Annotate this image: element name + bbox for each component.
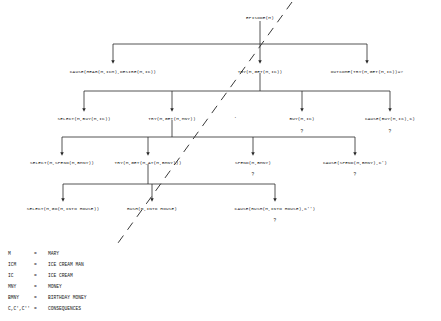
legend-item: BMNY = BIRTHDAY MONEY <box>8 296 87 301</box>
legend-definition: MONEY <box>48 285 62 290</box>
node-try-get-mny: TRY(M,GET(M,MNY)) <box>148 117 195 121</box>
legend-item: IC = ICE CREAM <box>8 274 87 279</box>
legend-equals: = <box>34 307 48 312</box>
legend-symbol: IC <box>8 274 34 279</box>
node-spend-m-bmny: SPEND(M,BMNY) <box>235 161 271 165</box>
node-select-go-into-house: SELECT(M,GO(M,INTO HOUSE)) <box>27 207 99 211</box>
legend-item: MNY = MONEY <box>8 285 87 290</box>
separator-dot: · <box>234 115 237 120</box>
legend-equals: = <box>34 263 48 268</box>
node-cause-hear-desire: CAUSE(HEAR(M,ICM),DESIRE(M,IC)) <box>70 70 156 74</box>
legend-definition: CONSEQUENCES <box>48 307 81 312</box>
legend-symbol: ICM <box>8 263 34 268</box>
qmark-spend-m-bmny: ? <box>252 172 255 177</box>
legend-equals: = <box>34 252 48 257</box>
legend-equals: = <box>34 296 48 301</box>
node-cause-buy-c: CAUSE(BUY(M,IC),C) <box>365 117 415 121</box>
legend-symbol: C,C',C'' <box>8 307 34 312</box>
node-try-get-at-bmny: TRY(M,GET(M,AT(M,BMNY))) <box>115 161 182 165</box>
node-cause-spend-bmny-c1: CAUSE(SPEND(M,BMNY),C') <box>323 161 387 165</box>
legend-symbol: BMNY <box>8 296 34 301</box>
legend-symbol: M <box>8 252 34 257</box>
node-rush-into-house: RUSH(M,INTO HOUSE) <box>127 207 177 211</box>
legend-definition: ICE CREAM <box>48 274 73 279</box>
legend-definition: BIRTHDAY MONEY <box>48 296 87 301</box>
legend-item: ICM = ICE CREAM MAN <box>8 263 87 268</box>
node-cause-rush-into-house-c2: CAUSE(RUSH(M,INTO HOUSE),C'') <box>235 207 316 211</box>
qmark-buy-m-ic: ? <box>301 129 304 134</box>
node-select-spend-bmny: SELECT(M,SPEND(M,BMNY)) <box>30 161 94 165</box>
legend-item: C,C',C'' = CONSEQUENCES <box>8 307 87 312</box>
qmark-cause-buy-c: ? <box>389 129 392 134</box>
legend-equals: = <box>34 274 48 279</box>
node-buy-m-ic: BUY(M,IC) <box>289 117 314 121</box>
node-outcome-try-get-ic: OUTCOME(TRY(M,GET(M,IC))=? <box>331 70 403 74</box>
qmark-cause-rush-into-house-c2: ? <box>274 218 277 223</box>
legend-definition: ICE CREAM MAN <box>48 263 84 268</box>
qmark-cause-spend-bmny-c1: ? <box>354 172 357 177</box>
legend-definition: MARY <box>48 252 59 257</box>
node-try-get-ic: TRY(M,GET(M,IC)) <box>238 70 283 74</box>
legend: M = MARY ICM = ICE CREAM MAN IC = ICE CR… <box>8 252 87 318</box>
node-episode: EPISODE(M) <box>246 16 274 20</box>
tree-diagram: EPISODE(M) CAUSE(HEAR(M,ICM),DESIRE(M,IC… <box>0 0 441 321</box>
legend-equals: = <box>34 285 48 290</box>
node-select-buy-ic: SELECT(M,BUY(M,IC)) <box>58 117 111 121</box>
legend-item: M = MARY <box>8 252 87 257</box>
legend-symbol: MNY <box>8 285 34 290</box>
